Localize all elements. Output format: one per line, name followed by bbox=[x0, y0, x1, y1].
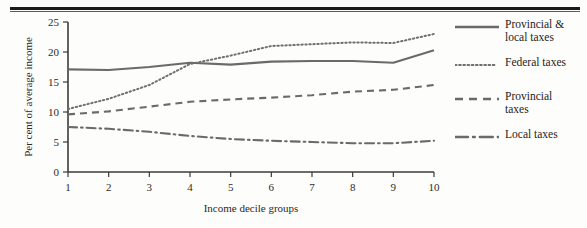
x-tick-label: 6 bbox=[269, 181, 275, 193]
legend-item-label: Federal taxes bbox=[499, 56, 566, 69]
y-tick-label: 0 bbox=[54, 166, 60, 178]
x-axis-label: Income decile groups bbox=[204, 202, 299, 214]
y-axis-ticks: 0510152025 bbox=[48, 16, 68, 178]
y-tick-label: 10 bbox=[48, 106, 60, 118]
x-tick-label: 2 bbox=[106, 181, 112, 193]
x-tick-label: 8 bbox=[350, 181, 356, 193]
x-tick-label: 9 bbox=[391, 181, 397, 193]
figure-container: 0510152025 12345678910 Income decile gro… bbox=[0, 0, 587, 228]
legend-item-label: Provincial taxes bbox=[499, 90, 552, 116]
legend-line-swatch-solid bbox=[455, 21, 499, 35]
x-tick-label: 1 bbox=[65, 181, 71, 193]
x-tick-label: 10 bbox=[429, 181, 441, 193]
legend-item[interactable]: Local taxes bbox=[455, 128, 583, 150]
x-tick-label: 3 bbox=[147, 181, 153, 193]
series-line bbox=[68, 127, 434, 143]
legend-line-swatch-dashdot bbox=[455, 131, 499, 145]
series-line bbox=[68, 50, 434, 70]
y-tick-label: 5 bbox=[54, 136, 60, 148]
x-tick-label: 5 bbox=[228, 181, 234, 193]
legend-item-label: Provincial & local taxes bbox=[499, 18, 564, 44]
legend-item-label: Local taxes bbox=[499, 128, 558, 141]
legend-item[interactable]: Provincial & local taxes bbox=[455, 18, 583, 44]
legend-line-swatch-dotted bbox=[455, 59, 499, 73]
legend-item[interactable]: Provincial taxes bbox=[455, 90, 583, 116]
x-tick-label: 7 bbox=[309, 181, 315, 193]
y-tick-label: 20 bbox=[48, 46, 60, 58]
legend-item[interactable]: Federal taxes bbox=[455, 56, 583, 78]
y-tick-label: 25 bbox=[48, 16, 60, 28]
x-axis-ticks: 12345678910 bbox=[65, 172, 440, 193]
y-tick-label: 15 bbox=[48, 76, 60, 88]
chart-legend: Provincial & local taxesFederal taxesPro… bbox=[455, 18, 583, 162]
x-tick-label: 4 bbox=[187, 181, 193, 193]
series-lines bbox=[68, 34, 434, 143]
legend-line-swatch-dashed bbox=[455, 93, 499, 107]
series-line bbox=[68, 85, 434, 114]
y-axis-label: Per cent of average income bbox=[22, 37, 34, 157]
